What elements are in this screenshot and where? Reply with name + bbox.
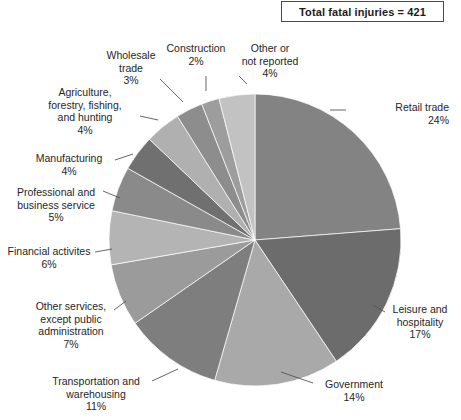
leader-line-manufacturing bbox=[115, 154, 133, 160]
slice-label-manufacturing: Manufacturing 4% bbox=[22, 152, 116, 177]
slice-label-government: Government 14% bbox=[311, 378, 397, 403]
slice-label-construction: Construction 2% bbox=[157, 42, 235, 67]
leader-line-agriculture bbox=[140, 116, 158, 120]
slice-label-financial-activities: Financial activites 6% bbox=[2, 245, 96, 270]
slice-label-wholesale-trade: Wholesale trade 3% bbox=[100, 49, 162, 87]
slice-label-transportation-warehousing: Transportation and warehousing 11% bbox=[36, 375, 156, 413]
slice-label-professional-business: Professional and business service 5% bbox=[8, 186, 104, 224]
slice-label-agriculture: Agriculture, forestry, fishing, and hunt… bbox=[29, 86, 141, 136]
slice-label-leisure-hospitality: Leisure and hospitality 17% bbox=[381, 303, 459, 341]
pie-chart-figure: Total fatal injuries = 421 Retail trade … bbox=[0, 0, 461, 420]
slice-label-retail-trade: Retail trade 24% bbox=[341, 101, 449, 126]
slice-label-other-services: Other services, except public administra… bbox=[24, 300, 118, 350]
pie-slices-group bbox=[109, 94, 401, 386]
slice-label-other-not-reported: Other or not reported 4% bbox=[229, 42, 311, 80]
leader-line-wholesale-trade bbox=[160, 79, 183, 102]
